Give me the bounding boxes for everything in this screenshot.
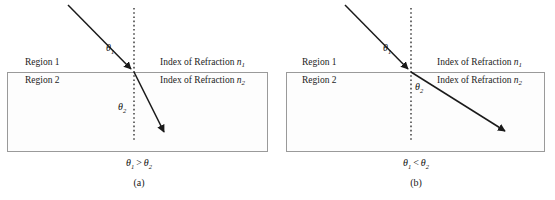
index-n2-text: Index of Refraction: [437, 75, 514, 85]
index-n1-text: Index of Refraction: [437, 57, 514, 67]
index-n1-subscript: 1: [242, 61, 246, 69]
angle-relation-a: θ1>θ2: [0, 158, 278, 168]
index-of-refraction-n2-label: Index of Refraction n2: [437, 76, 522, 86]
index-n2-symbol: n: [237, 75, 242, 85]
angle-relation-b: θ1<θ2: [277, 158, 555, 168]
relation-b-operator: <: [411, 157, 421, 168]
relation-a-right-symbol: θ: [144, 157, 149, 168]
region-2-label: Region 2: [302, 76, 337, 86]
relation-a-operator: >: [134, 157, 144, 168]
index-n1-subscript: 1: [519, 61, 523, 69]
theta-2-angle-label: θ2: [415, 82, 423, 92]
theta-1-angle-label: θ1: [106, 43, 114, 53]
theta-1-subscript: 1: [111, 48, 114, 55]
incident-ray: [345, 5, 408, 69]
index-n1-text: Index of Refraction: [160, 57, 237, 67]
relation-b-right-subscript: 2: [426, 163, 429, 170]
theta-2-subscript: 2: [123, 107, 126, 114]
theta-1-subscript: 1: [388, 48, 391, 55]
panel-a-graphics: [0, 0, 278, 200]
theta-1-angle-label: θ1: [383, 43, 391, 53]
index-n1-symbol: n: [514, 57, 519, 67]
index-n2-text: Index of Refraction: [160, 75, 237, 85]
panel-a-caption: (a): [0, 178, 278, 188]
refraction-figure: Region 1 Region 2 Index of Refraction n1…: [0, 0, 555, 200]
relation-b-right-symbol: θ: [421, 157, 426, 168]
region-1-label: Region 1: [302, 58, 337, 68]
index-n2-subscript: 2: [519, 79, 523, 87]
region-1-label: Region 1: [25, 58, 60, 68]
panel-a: Region 1 Region 2 Index of Refraction n1…: [0, 0, 278, 200]
theta-2-subscript: 2: [420, 87, 423, 94]
relation-a-left-subscript: 1: [131, 163, 134, 170]
panel-b-caption: (b): [277, 178, 555, 188]
index-of-refraction-n2-label: Index of Refraction n2: [160, 76, 245, 86]
theta-2-angle-label: θ2: [118, 102, 126, 112]
panel-b-graphics: [277, 0, 555, 200]
index-of-refraction-n1-label: Index of Refraction n1: [160, 58, 245, 68]
index-n1-symbol: n: [237, 57, 242, 67]
incident-ray: [68, 5, 131, 69]
relation-a-right-subscript: 2: [149, 163, 152, 170]
relation-b-left-subscript: 1: [408, 163, 411, 170]
region-2-label: Region 2: [25, 76, 60, 86]
index-of-refraction-n1-label: Index of Refraction n1: [437, 58, 522, 68]
index-n2-subscript: 2: [242, 79, 246, 87]
panel-b: Region 1 Region 2 Index of Refraction n1…: [277, 0, 555, 200]
index-n2-symbol: n: [514, 75, 519, 85]
